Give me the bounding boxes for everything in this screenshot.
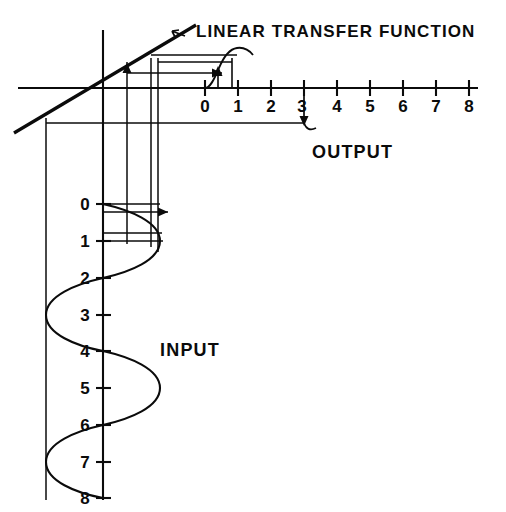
output-tick-label-1: 1 — [233, 97, 242, 116]
transfer-function-annotation-label: LINEAR TRANSFER FUNCTION — [196, 22, 476, 41]
input-tick-label-3: 3 — [80, 306, 89, 325]
input-tick-label-0: 0 — [80, 195, 89, 214]
output-tick-label-8: 8 — [464, 97, 473, 116]
diagram-canvas: 0 1 2 3 4 5 6 7 8 0 1 2 3 4 5 6 7 8 LINE… — [0, 0, 506, 512]
input-tick-label-1: 1 — [80, 232, 89, 251]
input-tick-label-2: 2 — [80, 269, 89, 288]
transfer-function-diagram: 0 1 2 3 4 5 6 7 8 0 1 2 3 4 5 6 7 8 LINE… — [0, 0, 506, 512]
output-tick-label-5: 5 — [365, 97, 374, 116]
output-tick-labels: 0 1 2 3 4 5 6 7 8 — [200, 97, 473, 116]
output-tick-label-7: 7 — [431, 97, 440, 116]
output-axis-label: OUTPUT — [312, 142, 393, 162]
output-tick-label-4: 4 — [332, 97, 342, 116]
output-tick-label-2: 2 — [266, 97, 275, 116]
input-tick-label-7: 7 — [80, 453, 89, 472]
input-axis-label: INPUT — [160, 340, 220, 360]
output-waveform-curve — [205, 48, 253, 88]
output-tick-label-0: 0 — [200, 97, 209, 116]
output-tick-label-6: 6 — [398, 97, 407, 116]
input-tick-label-6: 6 — [80, 416, 89, 435]
linear-transfer-function-line — [14, 25, 196, 133]
input-tick-labels: 0 1 2 3 4 5 6 7 8 — [80, 195, 90, 508]
input-tick-label-8: 8 — [80, 489, 89, 508]
input-tick-label-4: 4 — [80, 342, 90, 361]
output-tick-label-3: 3 — [297, 97, 306, 116]
input-tick-label-5: 5 — [80, 379, 89, 398]
